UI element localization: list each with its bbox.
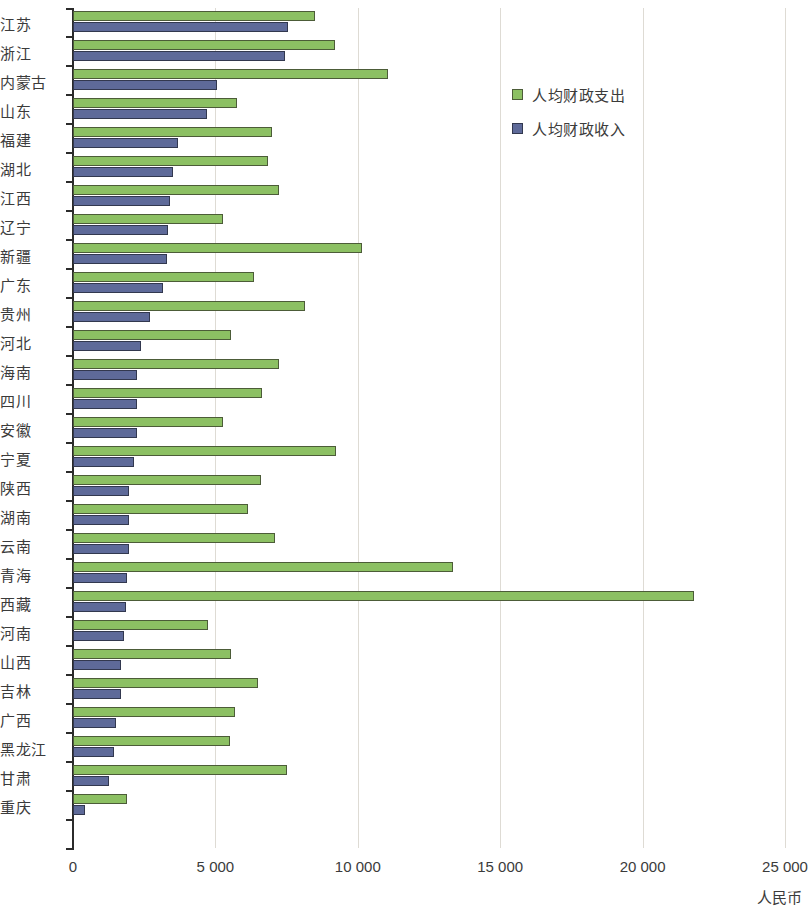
bar-revenue [73, 196, 170, 206]
bar-revenue [73, 428, 137, 438]
bar-revenue [73, 80, 217, 90]
bar-expenditure [73, 243, 362, 253]
bar-row [73, 37, 785, 66]
category-label: 陕西 [0, 477, 64, 498]
category-label: 浙江 [0, 42, 64, 63]
y-axis-tick [66, 36, 73, 38]
category-label: 云南 [0, 535, 64, 556]
category-label: 河南 [0, 622, 64, 643]
bar-expenditure [73, 98, 237, 108]
bar-revenue [73, 109, 207, 119]
category-label: 江西 [0, 187, 64, 208]
bar-row [73, 124, 785, 153]
y-axis-tick [66, 819, 73, 821]
bar-revenue [73, 22, 288, 32]
category-label: 新疆 [0, 245, 64, 266]
legend-item-revenue: 人均财政收入 [512, 118, 625, 139]
category-label: 海南 [0, 361, 64, 382]
bar-row [73, 559, 785, 588]
y-axis-tick [66, 210, 73, 212]
bar-revenue [73, 341, 141, 351]
x-tick-label: 10 000 [335, 858, 381, 875]
y-axis-tick [66, 674, 73, 676]
bar-expenditure [73, 504, 248, 514]
bar-row [73, 414, 785, 443]
bar-row [73, 153, 785, 182]
bar-row [73, 327, 785, 356]
bar-row [73, 617, 785, 646]
bar-expenditure [73, 533, 275, 543]
bar-revenue [73, 544, 129, 554]
x-tick-label: 25 000 [762, 858, 808, 875]
bar-row [73, 269, 785, 298]
bar-row [73, 356, 785, 385]
bar-revenue [73, 225, 168, 235]
y-axis-tick [66, 181, 73, 183]
bar-expenditure [73, 649, 231, 659]
category-label: 广西 [0, 709, 64, 730]
category-label: 内蒙古 [0, 71, 64, 92]
x-tick-label: 20 000 [620, 858, 666, 875]
chart-legend: 人均财政支出 人均财政收入 [512, 84, 625, 152]
bar-row [73, 240, 785, 269]
bar-expenditure [73, 388, 262, 398]
category-label: 黑龙江 [0, 738, 64, 759]
bar-row [73, 588, 785, 617]
bar-row [73, 762, 785, 791]
y-axis-tick [66, 355, 73, 357]
category-label: 河北 [0, 332, 64, 353]
category-label: 贵州 [0, 303, 64, 324]
x-tick-label: 5 000 [197, 858, 235, 875]
bar-expenditure [73, 446, 336, 456]
bar-row [73, 211, 785, 240]
bar-revenue [73, 718, 116, 728]
bar-chart: 05 00010 00015 00020 00025 000 江苏浙江内蒙古山东… [0, 0, 810, 916]
legend-swatch-expenditure-icon [512, 89, 523, 100]
y-axis-tick [66, 384, 73, 386]
bar-expenditure [73, 214, 223, 224]
y-axis-bottom-cap [66, 848, 74, 850]
category-label: 甘肃 [0, 767, 64, 788]
legend-label-revenue: 人均财政收入 [532, 118, 625, 139]
y-axis-tick [66, 471, 73, 473]
category-label: 安徽 [0, 419, 64, 440]
category-label: 湖北 [0, 158, 64, 179]
category-label: 福建 [0, 129, 64, 150]
bar-expenditure [73, 736, 230, 746]
category-label: 辽宁 [0, 216, 64, 237]
bar-row [73, 298, 785, 327]
bar-revenue [73, 747, 114, 757]
bar-row [73, 501, 785, 530]
bar-revenue [73, 805, 85, 815]
bar-revenue [73, 776, 109, 786]
y-axis-tick [66, 65, 73, 67]
bar-expenditure [73, 765, 287, 775]
y-axis-tick [66, 239, 73, 241]
bar-revenue [73, 602, 126, 612]
y-axis-tick [66, 413, 73, 415]
category-label: 四川 [0, 390, 64, 411]
category-label: 湖南 [0, 506, 64, 527]
x-tick-label: 15 000 [477, 858, 523, 875]
bar-expenditure [73, 11, 315, 21]
y-axis-tick [66, 732, 73, 734]
bar-expenditure [73, 591, 694, 601]
category-label: 青海 [0, 564, 64, 585]
bar-revenue [73, 399, 137, 409]
y-axis-tick [66, 558, 73, 560]
y-axis-tick [66, 500, 73, 502]
bar-expenditure [73, 272, 254, 282]
x-tick-label: 0 [69, 858, 77, 875]
category-label: 吉林 [0, 680, 64, 701]
bar-expenditure [73, 127, 272, 137]
bar-revenue [73, 51, 285, 61]
legend-swatch-revenue-icon [512, 123, 523, 134]
bar-expenditure [73, 620, 208, 630]
y-axis-tick [66, 442, 73, 444]
bar-revenue [73, 370, 137, 380]
bar-expenditure [73, 475, 261, 485]
bar-row [73, 66, 785, 95]
bar-revenue [73, 573, 127, 583]
bar-expenditure [73, 678, 258, 688]
category-label: 西藏 [0, 593, 64, 614]
